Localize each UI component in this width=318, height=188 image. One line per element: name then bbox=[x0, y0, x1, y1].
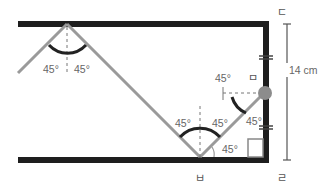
angle-label-bottom-left: 45° bbox=[175, 117, 191, 129]
angle-label-wall: 45° bbox=[246, 115, 262, 127]
angle-label-top-right: 45° bbox=[74, 63, 90, 75]
angle-label-bottom-right: 45° bbox=[212, 117, 228, 129]
point-label-bottom-right: ㄹ bbox=[277, 172, 287, 185]
normal-lines bbox=[67, 27, 262, 157]
point-label-ball: ㅁ bbox=[248, 72, 258, 85]
right-angle-marker bbox=[248, 139, 263, 157]
point-label-bottom-reflect: ㅂ bbox=[195, 172, 205, 185]
angle-label-top-left: 45° bbox=[43, 63, 59, 75]
angle-label-corner: 45° bbox=[222, 143, 238, 155]
angle-label-ball: 45° bbox=[215, 72, 231, 84]
table-walls bbox=[18, 21, 268, 163]
ball bbox=[258, 86, 272, 100]
measurement-label: 14 cm bbox=[289, 64, 318, 76]
corner-angle-arc bbox=[212, 147, 214, 157]
path-segment-2 bbox=[67, 24, 200, 157]
ball-angle-arc bbox=[232, 97, 246, 113]
ball-path bbox=[18, 24, 264, 157]
measurement-bar bbox=[283, 24, 291, 160]
point-label-top-right: ㄷ bbox=[277, 6, 287, 19]
billiard-diagram: 14 cm ㄷ ㅁ ㅂ ㄹ 45° 45° 45° 45° 45° 45° 45… bbox=[0, 0, 318, 188]
